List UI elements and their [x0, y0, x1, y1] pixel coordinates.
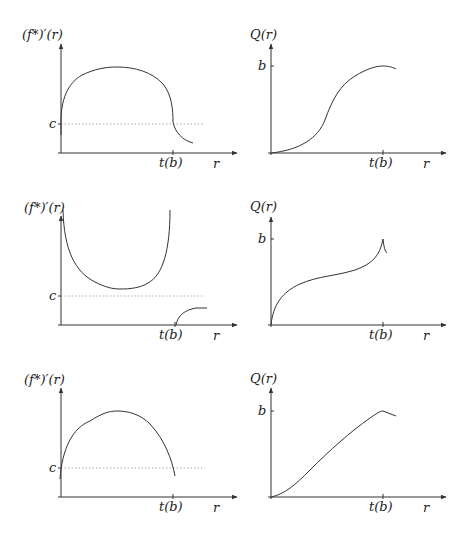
panel-row2-right: Q(r) b t(b) r	[250, 199, 446, 343]
panel-row2-left: (f*)′(r) c t(b) r	[24, 200, 237, 343]
tb-label: t(b)	[369, 155, 393, 170]
y-axis-label: Q(r)	[250, 199, 277, 214]
y-axis-label: Q(r)	[250, 27, 277, 42]
x-axis-label: r	[423, 328, 430, 343]
figure-canvas: (f*)′(r) c t(b) r Q(r) b t(b) r (f*)′(r)…	[0, 0, 470, 537]
panel-row1-right: Q(r) b t(b) r	[250, 27, 446, 171]
panel-row1-left: (f*)′(r) c t(b) r	[22, 27, 237, 171]
q-curve-linear	[271, 411, 396, 497]
x-axis-label: r	[213, 156, 220, 171]
y-axis-label: (f*)′(r)	[24, 372, 65, 387]
tb-label: t(b)	[369, 499, 393, 514]
c-label: c	[49, 116, 57, 131]
derivative-arc	[60, 411, 175, 479]
c-label: c	[49, 288, 57, 303]
x-axis-label: r	[213, 500, 220, 515]
b-label: b	[258, 231, 266, 246]
tb-label: t(b)	[159, 499, 183, 514]
tb-label: t(b)	[369, 327, 393, 342]
y-axis-label: Q(r)	[250, 371, 277, 386]
derivative-curve-u	[63, 210, 170, 289]
x-axis-label: r	[423, 156, 430, 171]
c-label: c	[49, 460, 57, 475]
x-axis-label: r	[423, 500, 430, 515]
q-curve-cusp	[271, 239, 387, 325]
derivative-curve-tail	[176, 308, 207, 325]
panel-row3-left: (f*)′(r) c t(b) r	[24, 372, 237, 515]
b-label: b	[258, 403, 266, 418]
y-axis-label: (f*)′(r)	[22, 27, 63, 42]
x-axis-label: r	[213, 328, 220, 343]
panel-row3-right: Q(r) b t(b) r	[250, 371, 446, 515]
y-axis-label: (f*)′(r)	[24, 200, 65, 215]
derivative-curve	[61, 67, 193, 143]
tb-label: t(b)	[159, 327, 183, 342]
q-curve	[271, 66, 396, 153]
b-label: b	[258, 58, 266, 73]
tb-label: t(b)	[159, 155, 183, 170]
